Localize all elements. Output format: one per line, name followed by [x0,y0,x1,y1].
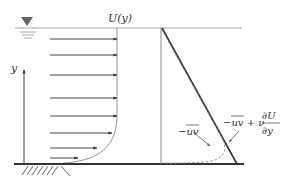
velocity-arrows [50,39,117,158]
svg-text:−uv: −uv [178,126,199,137]
svg-text:∂y: ∂y [262,125,273,136]
reynolds-stress-label: −uv [178,125,199,137]
total-stress-line [162,28,237,164]
svg-text:∂U: ∂U [262,110,276,121]
diagram-canvas: U(y) y [0,0,289,186]
diagram-svg: U(y) y [0,0,289,186]
water-level-triangle-icon [21,17,33,26]
svg-text:−uv + ν: −uv + ν [223,117,264,128]
y-axis-label: y [10,62,18,75]
reynolds-stress-curve [162,30,225,163]
bed-hatching [22,166,70,176]
y-axis: y [10,62,24,164]
channel-bed [14,164,244,176]
velocity-label: U(y) [108,12,132,25]
stress-distribution [161,28,239,164]
total-stress-label: −uv + ν ∂U ∂y [223,110,280,136]
velocity-profile-curve [40,28,117,164]
